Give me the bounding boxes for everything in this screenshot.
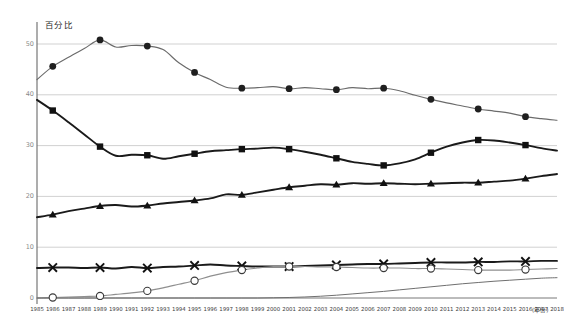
x-tick-label-2011: 2011: [440, 306, 454, 312]
marker-series-circle-open-1992: [144, 287, 151, 294]
x-tick-label-1997: 1997: [219, 306, 233, 312]
x-tick-label-1988: 1988: [77, 306, 91, 312]
x-tick-label-2007: 2007: [377, 306, 391, 312]
x-tick-label-2009: 2009: [408, 306, 422, 312]
x-tick-label-2002: 2002: [298, 306, 312, 312]
x-tick-label-1993: 1993: [156, 306, 170, 312]
x-tick-label-1996: 1996: [203, 306, 217, 312]
y-axis-unit-label: 百分比: [45, 18, 73, 30]
marker-series-circle-filled-1995: [191, 69, 198, 76]
marker-series-square-filled-2010: [428, 150, 434, 156]
marker-series-circle-open-2016: [522, 266, 529, 273]
marker-series-circle-open-2004: [333, 263, 340, 270]
x-tick-label-2003: 2003: [314, 306, 328, 312]
x-tick-label-1991: 1991: [125, 306, 139, 312]
marker-series-square-filled-2016: [522, 142, 528, 148]
x-tick-label-1986: 1986: [46, 306, 60, 312]
marker-series-circle-filled-1992: [144, 43, 151, 50]
marker-series-square-filled-2001: [286, 146, 292, 152]
y-tick-label-0: 0: [20, 294, 34, 302]
marker-series-circle-filled-2010: [428, 96, 435, 103]
marker-series-square-filled-1989: [97, 143, 103, 149]
marker-series-square-filled-1995: [191, 151, 197, 157]
x-tick-label-1998: 1998: [235, 306, 249, 312]
x-tick-label-1994: 1994: [172, 306, 186, 312]
marker-series-circle-open-1989: [96, 292, 103, 299]
x-tick-label-2005: 2005: [345, 306, 359, 312]
x-tick-label-2016: 2016: [519, 306, 533, 312]
y-tick-label-40: 40: [20, 90, 34, 98]
marker-series-circle-open-1995: [191, 277, 198, 284]
marker-series-circle-filled-2004: [333, 86, 340, 93]
x-tick-label-1985: 1985: [30, 306, 44, 312]
marker-series-circle-filled-1986: [49, 63, 56, 70]
x-tick-label-2008: 2008: [393, 306, 407, 312]
y-tick-label-30: 30: [20, 141, 34, 149]
y-tick-label-50: 50: [20, 40, 34, 48]
marker-series-circle-open-2010: [427, 265, 434, 272]
marker-series-circle-open-1986: [49, 294, 56, 301]
x-tick-label-1990: 1990: [109, 306, 123, 312]
marker-series-square-filled-1986: [50, 107, 56, 113]
marker-series-square-filled-1998: [239, 146, 245, 152]
x-tick-label-2018: 2018: [550, 306, 564, 312]
x-tick-label-1989: 1989: [93, 306, 107, 312]
x-tick-label-1992: 1992: [140, 306, 154, 312]
x-tick-label-2012: 2012: [456, 306, 470, 312]
y-tick-label-10: 10: [20, 243, 34, 251]
marker-series-square-filled-2004: [333, 155, 339, 161]
x-axis-title: (年份): [532, 306, 548, 314]
marker-series-circle-filled-2016: [522, 113, 529, 120]
x-tick-label-2000: 2000: [267, 306, 281, 312]
x-tick-label-2004: 2004: [330, 306, 344, 312]
x-tick-label-2014: 2014: [487, 306, 501, 312]
marker-series-circle-open-2001: [286, 263, 293, 270]
marker-series-circle-filled-1998: [238, 85, 245, 92]
x-tick-label-2006: 2006: [361, 306, 375, 312]
marker-series-circle-filled-1989: [97, 37, 104, 44]
marker-series-square-filled-2013: [475, 137, 481, 143]
data-series: [37, 40, 557, 298]
x-tick-label-2015: 2015: [503, 306, 517, 312]
x-tick-label-2013: 2013: [471, 306, 485, 312]
data-markers: [49, 37, 530, 302]
marker-series-square-filled-2007: [380, 162, 386, 168]
marker-series-square-filled-1992: [144, 152, 150, 158]
marker-series-circle-open-2007: [380, 264, 387, 271]
x-tick-label-2001: 2001: [282, 306, 296, 312]
x-tick-label-1995: 1995: [188, 306, 202, 312]
x-tick-label-2010: 2010: [424, 306, 438, 312]
marker-series-circle-open-1998: [238, 266, 245, 273]
marker-series-circle-filled-2013: [475, 106, 482, 113]
x-tick-label-1987: 1987: [62, 306, 76, 312]
x-tick-label-1999: 1999: [251, 306, 265, 312]
marker-series-circle-filled-2001: [286, 85, 293, 92]
marker-series-circle-open-2013: [475, 266, 482, 273]
marker-series-circle-filled-2007: [380, 85, 387, 92]
y-tick-label-20: 20: [20, 192, 34, 200]
